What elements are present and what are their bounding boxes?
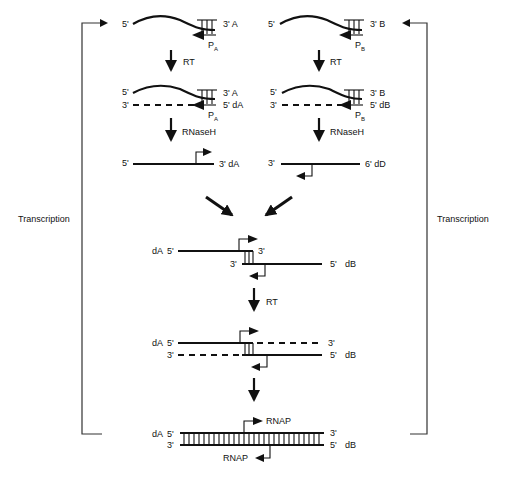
promoter-arrow-icon (249, 272, 258, 280)
svg-text:5': 5' (330, 440, 337, 450)
svg-text:5': 5' (122, 87, 129, 97)
svg-text:5' dB: 5' dB (370, 100, 390, 110)
annealed-duplex: dA 5' 3' 3' 5' dB (152, 235, 356, 280)
arrow-head-icon (100, 19, 108, 27)
svg-text:3': 3' (122, 100, 129, 110)
svg-text:dB: dB (345, 350, 356, 360)
svg-text:A: A (214, 116, 218, 122)
hybrid-b: 5' 3' B 3' 5' dB P B (270, 86, 390, 122)
svg-text:dA: dA (152, 338, 163, 348)
final-dsdna: dA 5' 3' 3' 5' dB RNAP RNAP (152, 416, 356, 463)
svg-text:3' A: 3' A (223, 88, 238, 98)
svg-text:dB: dB (345, 259, 356, 269)
arrow-head-icon (402, 19, 410, 27)
single-strand-da: 5' 3' dA (122, 148, 239, 169)
svg-text:5': 5' (268, 19, 275, 29)
svg-text:3' B: 3' B (370, 19, 385, 29)
extended-duplex: dA 5' 3' 3' 5' dB (152, 327, 356, 371)
promoter-arrow-icon (249, 327, 259, 335)
svg-text:3' dA: 3' dA (219, 159, 239, 169)
svg-text:3': 3' (328, 338, 335, 348)
amplification-diagram: Transcription Transcription 5' 3' A P A … (0, 0, 507, 477)
rna-b: 5' 3' B P B (268, 16, 385, 52)
rnap-label-bottom: RNAP (223, 453, 248, 463)
svg-text:B: B (361, 116, 365, 122)
primer-arrow-icon (339, 30, 351, 40)
svg-text:5': 5' (167, 246, 174, 256)
step-label: RT (266, 297, 278, 307)
hybrid-a: 5' 3' A 3' 5' dA P A (122, 86, 243, 122)
svg-text:3': 3' (230, 259, 237, 269)
right-transcription-bracket (402, 19, 427, 434)
rnap-label-top: RNAP (266, 416, 291, 426)
svg-text:3': 3' (270, 100, 277, 110)
svg-text:3' A: 3' A (223, 19, 238, 29)
svg-text:dB: dB (345, 440, 356, 450)
base-pair-rungs (184, 433, 319, 445)
svg-text:5' dA: 5' dA (223, 100, 243, 110)
svg-text:A: A (214, 46, 218, 52)
svg-text:dA: dA (152, 246, 163, 256)
svg-text:5': 5' (330, 259, 337, 269)
step-label: RNaseH (182, 127, 216, 137)
svg-text:5': 5' (122, 158, 129, 168)
converge-arrow-right-icon (266, 197, 292, 215)
primer-arrow-icon (192, 30, 204, 40)
rnap-promoter-arrow-icon (253, 417, 263, 425)
primer-arrow-icon (339, 100, 351, 110)
svg-text:3': 3' (258, 246, 265, 256)
svg-text:3': 3' (167, 440, 174, 450)
rnap-promoter-arrow-icon (255, 454, 264, 462)
rna-a: 5' 3' A P A (122, 16, 238, 52)
transcription-label-left: Transcription (18, 214, 70, 224)
svg-text:B: B (361, 46, 365, 52)
left-transcription-bracket (82, 19, 108, 434)
transcription-label-right: Transcription (437, 214, 489, 224)
svg-text:3' B: 3' B (370, 88, 385, 98)
promoter-arrow-icon (203, 148, 212, 156)
step-label: RNaseH (330, 127, 364, 137)
step-label: RT (183, 57, 195, 67)
svg-text:6' dD: 6' dD (365, 159, 386, 169)
svg-text:3': 3' (268, 158, 275, 168)
svg-text:3': 3' (330, 428, 337, 438)
svg-text:5': 5' (167, 429, 174, 439)
promoter-arrow-icon (296, 172, 305, 180)
promoter-arrow-icon (248, 235, 258, 243)
step-label: RT (330, 57, 342, 67)
promoter-arrow-icon (251, 363, 260, 371)
svg-text:5': 5' (330, 350, 337, 360)
svg-text:5': 5' (122, 19, 129, 29)
primer-arrow-icon (192, 100, 204, 110)
svg-text:5': 5' (167, 338, 174, 348)
svg-text:5': 5' (270, 87, 277, 97)
converge-arrow-left-icon (206, 197, 232, 215)
single-strand-db: 3' 6' dD (268, 158, 386, 180)
svg-text:3': 3' (167, 350, 174, 360)
svg-text:dA: dA (152, 429, 163, 439)
